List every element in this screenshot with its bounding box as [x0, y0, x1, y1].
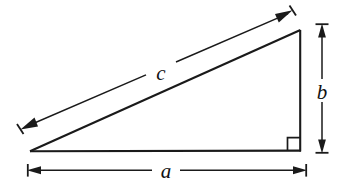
hypotenuse-dimension-line-right	[176, 14, 288, 62]
figure-container: c b	[0, 0, 343, 185]
hypotenuse-arrowhead-right	[275, 10, 293, 22]
hypotenuse-dimension: c	[17, 6, 296, 135]
vertical-leg-dimension: b	[316, 24, 329, 154]
hypotenuse-dimension-line-left	[28, 75, 147, 126]
vertical-leg-label: b	[317, 80, 328, 104]
horizontal-arrowhead-left	[27, 166, 41, 174]
right-triangle-figure: c b	[0, 0, 343, 185]
hypotenuse-serif-cap-right	[290, 6, 297, 16]
hypotenuse-label: c	[156, 61, 166, 85]
vertical-arrowhead-top	[318, 24, 326, 38]
vertical-arrowhead-bottom	[318, 140, 326, 154]
triangle-edge-hypotenuse	[30, 30, 300, 151]
triangle-shape	[30, 30, 301, 151]
hypotenuse-arrowhead-left	[21, 118, 39, 130]
horizontal-arrowhead-right	[293, 166, 307, 174]
triangle-edge-base	[30, 151, 301, 152]
horizontal-leg-dimension: a	[27, 159, 307, 183]
right-angle-marker	[288, 138, 301, 151]
horizontal-leg-label: a	[161, 159, 172, 183]
